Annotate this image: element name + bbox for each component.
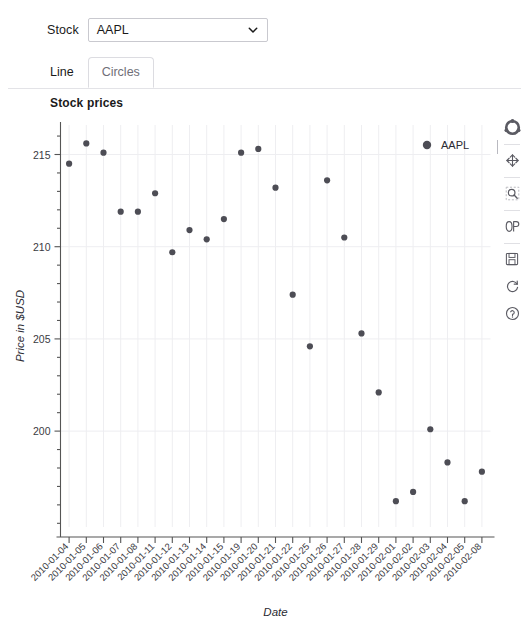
toolbar-separator xyxy=(504,210,520,211)
chart-title: Stock prices xyxy=(50,96,123,110)
x-axis-title: Date xyxy=(263,606,287,618)
data-point[interactable] xyxy=(341,234,347,240)
data-point[interactable] xyxy=(376,389,382,395)
data-point[interactable] xyxy=(186,227,192,233)
stock-select-value: AAPL xyxy=(89,23,129,37)
data-point[interactable] xyxy=(255,146,261,152)
y-tick-label: 215 xyxy=(33,149,51,161)
data-point[interactable] xyxy=(272,185,278,191)
y-tick-label: 205 xyxy=(33,333,51,345)
legend-marker xyxy=(423,141,431,149)
plot-canvas[interactable]: 2010-01-042010-01-052010-01-062010-01-07… xyxy=(0,110,529,626)
stock-select-row: Stock AAPL xyxy=(47,18,268,42)
data-point[interactable] xyxy=(462,498,468,504)
data-point[interactable] xyxy=(479,469,485,475)
data-point[interactable] xyxy=(169,249,175,255)
help-icon[interactable] xyxy=(501,302,523,324)
data-point[interactable] xyxy=(118,209,124,215)
toolbar-separator xyxy=(504,144,520,145)
tab-bar: Line Circles xyxy=(36,58,154,88)
legend-label[interactable]: AAPL xyxy=(441,139,469,151)
y-tick-label: 210 xyxy=(33,241,51,253)
chart-legend[interactable]: AAPL xyxy=(423,139,469,151)
wheel-zoom-icon[interactable] xyxy=(501,215,523,237)
tab-line[interactable]: Line xyxy=(36,57,88,88)
bokeh-logo-icon[interactable] xyxy=(501,116,523,138)
toolbar-divider xyxy=(497,140,498,154)
data-point[interactable] xyxy=(290,292,296,298)
toolbar-separator xyxy=(504,177,520,178)
data-point[interactable] xyxy=(152,190,158,196)
chevron-down-icon xyxy=(248,25,258,35)
data-point[interactable] xyxy=(83,140,89,146)
data-point[interactable] xyxy=(393,498,399,504)
x-tick-labels: 2010-01-042010-01-052010-01-062010-01-07… xyxy=(28,541,483,583)
data-point[interactable] xyxy=(307,343,313,349)
clipped-top-strip xyxy=(0,0,529,8)
data-point[interactable] xyxy=(238,150,244,156)
tab-circles[interactable]: Circles xyxy=(88,57,154,88)
y-tick-labels: 200205210215 xyxy=(33,149,51,438)
y-axis-title: Price in $USD xyxy=(14,290,26,362)
toolbar-separator xyxy=(504,243,520,244)
data-point[interactable] xyxy=(358,330,364,336)
data-point[interactable] xyxy=(221,216,227,222)
reset-icon[interactable] xyxy=(501,275,523,297)
data-point[interactable] xyxy=(66,161,72,167)
stock-select-label: Stock xyxy=(47,23,79,37)
data-point[interactable] xyxy=(427,426,433,432)
box-zoom-icon[interactable] xyxy=(501,182,523,204)
bokeh-toolbar xyxy=(500,116,524,329)
stock-select[interactable]: AAPL xyxy=(88,18,268,42)
data-point[interactable] xyxy=(444,459,450,465)
save-icon[interactable] xyxy=(501,248,523,270)
data-point[interactable] xyxy=(324,177,330,183)
data-point[interactable] xyxy=(204,236,210,242)
scatter-plot[interactable]: 2010-01-042010-01-052010-01-062010-01-07… xyxy=(0,110,529,626)
tab-bar-divider xyxy=(8,88,521,89)
data-point[interactable] xyxy=(100,150,106,156)
data-point[interactable] xyxy=(135,209,141,215)
y-tick-label: 200 xyxy=(33,425,51,437)
data-point[interactable] xyxy=(410,489,416,495)
pan-icon[interactable] xyxy=(501,149,523,171)
